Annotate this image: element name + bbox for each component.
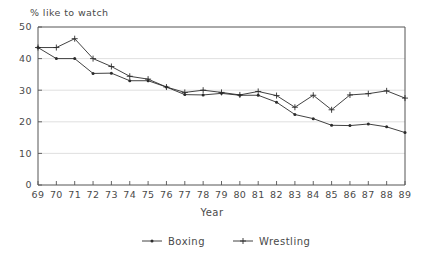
y-tick-label: 20: [19, 116, 32, 127]
x-tick-label: 82: [270, 189, 283, 200]
x-tick-label: 71: [68, 189, 81, 200]
series-layer: [35, 36, 408, 134]
series-wrestling: [35, 36, 408, 113]
x-tick-label: 72: [87, 189, 100, 200]
x-tick-label: 87: [362, 189, 375, 200]
x-tick-label: 86: [344, 189, 357, 200]
plot-frame: [38, 27, 405, 185]
x-tick-label: 81: [252, 189, 265, 200]
x-tick-label: 83: [288, 189, 301, 200]
chart-container: % like to watch 01020304050 697071727374…: [0, 0, 424, 263]
x-tick-label: 79: [215, 189, 228, 200]
x-tick-label: 78: [197, 189, 210, 200]
x-tick-label: 76: [160, 189, 173, 200]
y-tick-label: 10: [19, 148, 32, 159]
chart-legend: BoxingWrestling: [142, 236, 310, 247]
x-tick-label: 75: [142, 189, 155, 200]
x-tick-label: 69: [32, 189, 45, 200]
y-tick-label: 40: [19, 53, 32, 64]
legend-item-wrestling[interactable]: Wrestling: [233, 236, 310, 247]
legend-label: Boxing: [168, 236, 205, 247]
x-tick-label: 89: [399, 189, 412, 200]
x-axis-title: Year: [199, 207, 224, 218]
x-tick-label: 85: [325, 189, 338, 200]
x-tick-label: 73: [105, 189, 118, 200]
y-tick-label: 30: [19, 85, 32, 96]
x-tick-label: 88: [380, 189, 393, 200]
x-axis-ticks: 6970717273747576777879808182838485868788…: [32, 181, 412, 200]
x-tick-label: 80: [233, 189, 246, 200]
y-axis-title: % like to watch: [30, 7, 108, 18]
y-tick-label: 50: [19, 21, 32, 32]
x-tick-label: 74: [123, 189, 136, 200]
x-tick-label: 77: [178, 189, 191, 200]
legend-item-boxing[interactable]: Boxing: [142, 236, 205, 247]
x-tick-label: 84: [307, 189, 320, 200]
x-tick-label: 70: [50, 189, 63, 200]
legend-label: Wrestling: [259, 236, 310, 247]
line-chart: % like to watch 01020304050 697071727374…: [0, 0, 424, 263]
